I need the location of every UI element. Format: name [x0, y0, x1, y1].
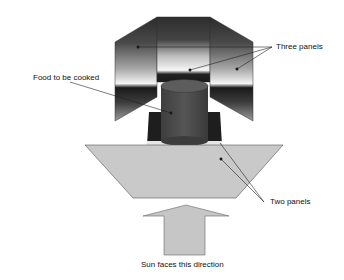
center-panel [157, 17, 210, 82]
label-sun-direction: Sun faces this direction [141, 261, 224, 269]
label-three-panels: Three panels [276, 43, 323, 51]
label-food-to-be-cooked: Food to be cooked [33, 74, 99, 82]
sun-direction-arrow [143, 205, 229, 255]
label-two-panels: Two panels [270, 198, 310, 206]
right-panel [210, 17, 253, 121]
two-panels [85, 145, 283, 198]
left-panel [115, 17, 157, 121]
food-pot [161, 80, 208, 147]
